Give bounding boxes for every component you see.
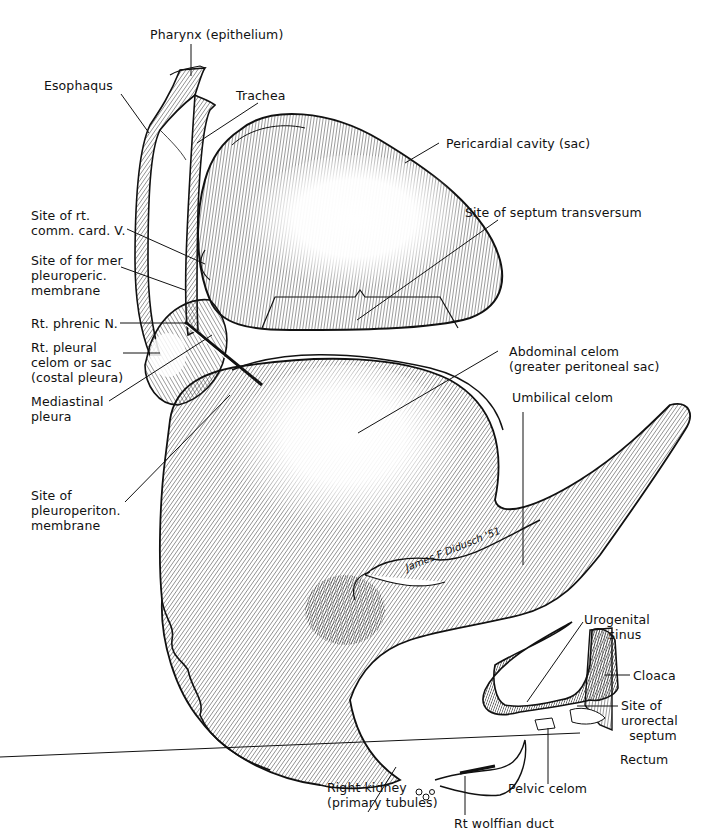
celom-illustration: [0, 0, 701, 835]
label-rt-phrenic-n: Rt. phrenic N.: [31, 316, 118, 331]
label-esophagus: Esophaqus: [44, 78, 113, 93]
label-rt-pleural-celom: Rt. pleural celom or sac (costal pleura): [31, 340, 123, 385]
label-pharynx: Pharynx (epithelium): [150, 27, 283, 42]
label-rectum: Rectum: [620, 752, 668, 767]
label-pelvic-celom: Pelvic celom: [508, 781, 587, 796]
label-pleuroperiton-membrane: Site of pleuroperiton. membrane: [31, 488, 121, 533]
label-abdominal-celom: Abdominal celom (greater peritoneal sac): [509, 344, 660, 374]
label-rt-comm-card-v: Site of rt. comm. card. V.: [31, 208, 125, 238]
label-umbilical-celom: Umbilical celom: [512, 390, 613, 405]
label-urogenital-sinus: Urogenital sinus: [584, 612, 650, 642]
label-septum-transversum: Site of septum transversum: [465, 205, 642, 220]
label-pleuroperic-membrane: Site of for mer pleuroperic. membrane: [31, 253, 123, 298]
leader-pleuroperic-membrane: [121, 267, 185, 290]
label-mediastinal-pleura: Mediastinal pleura: [31, 394, 104, 424]
anatomical-diagram: Pharynx (epithelium) Esophaqus Trachea P…: [0, 0, 701, 835]
label-right-kidney: Right kidney (primary tubules): [327, 780, 438, 810]
leader-esophagus: [121, 94, 149, 133]
label-urorectal-septum: Site of urorectal septum: [621, 698, 678, 743]
leader-pericardial: [405, 143, 439, 163]
label-cloaca: Cloaca: [633, 668, 676, 683]
label-rt-wolffian-duct: Rt wolffian duct: [454, 816, 554, 831]
label-trachea: Trachea: [236, 88, 285, 103]
cloaca-urogenital-shape: [416, 622, 618, 800]
label-pericardial-cavity: Pericardial cavity (sac): [446, 136, 590, 151]
